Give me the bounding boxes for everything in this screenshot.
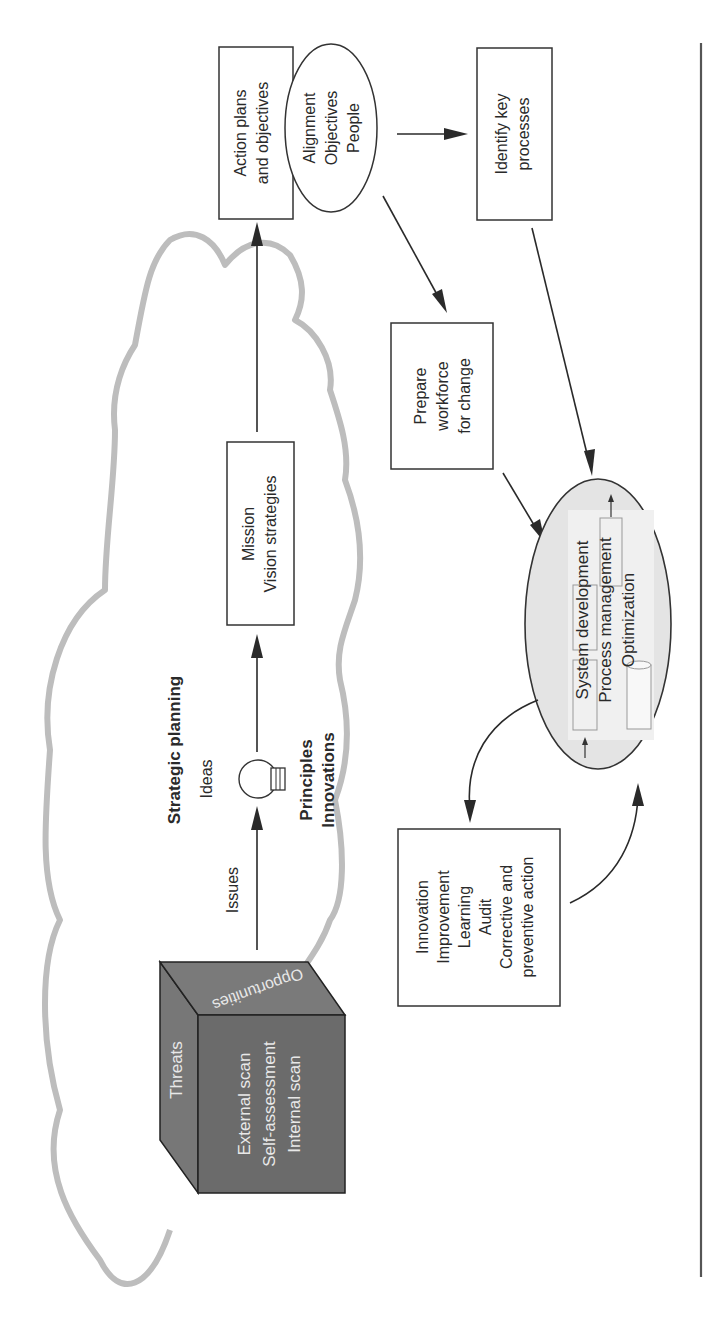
database-cylinder-icon: [627, 661, 651, 729]
improvement-line-3: Learning: [456, 886, 473, 948]
arrowhead-identify: [444, 128, 468, 140]
arrowhead-identify-system: [584, 449, 595, 476]
mission-box: [227, 442, 294, 625]
arrowhead-prepare: [432, 289, 447, 313]
optimization-label: Optimization: [619, 573, 638, 667]
prepare-line-2: workforce: [434, 361, 451, 431]
improvement-line-1: Innovation: [414, 880, 431, 954]
arrow-to-prepare: [383, 196, 440, 300]
arrowhead-system-return: [632, 783, 644, 806]
arrowhead-mission: [251, 634, 263, 658]
principles-label: Principles: [297, 739, 316, 820]
issues-label: Issues: [224, 867, 241, 913]
arrow-improvement-to-system: [570, 797, 638, 903]
innovations-label: Innovations: [319, 732, 338, 827]
arrowhead-issues: [251, 806, 263, 830]
action-plans-line-1: Action plans: [232, 89, 249, 176]
arrowhead-improvement: [464, 800, 476, 823]
system-development-label: System development: [573, 540, 592, 699]
cube-front-line-2: Self-assessment: [260, 1041, 279, 1167]
action-plans-line-2: and objectives: [254, 82, 271, 184]
improvement-line-6: preventive action: [519, 857, 536, 978]
strategic-planning-diagram: Opportunities Threats External scan Self…: [0, 0, 711, 1331]
mission-line-2: Vision strategies: [262, 475, 279, 592]
improvement-line-5: Corrective and: [498, 865, 515, 969]
lightbulb-icon: [239, 760, 285, 798]
prepare-line-3: for change: [456, 358, 473, 434]
process-management-label: Process management: [596, 537, 615, 703]
identify-line-1: Identify key: [493, 94, 510, 175]
ideas-label: Ideas: [198, 759, 215, 798]
cube-front-line-1: External scan: [235, 1053, 254, 1156]
prepare-line-1: Prepare: [412, 367, 429, 424]
identify-line-2: processes: [515, 98, 532, 171]
mission-line-1: Mission: [240, 507, 257, 561]
arrow-prepare-to-system: [503, 473, 537, 530]
swot-cube: Opportunities Threats External scan Self…: [160, 962, 345, 1193]
improvement-line-2: Improvement: [435, 870, 452, 964]
alignment-line-1: Alignment: [301, 92, 318, 164]
improvement-line-4: Audit: [477, 898, 494, 935]
alignment-line-3: People: [345, 103, 362, 153]
strategic-planning-title: Strategic planning: [165, 676, 184, 824]
arrow-system-to-improvement: [469, 700, 538, 810]
arrowhead-action: [251, 222, 263, 246]
cube-front-line-3: Internal scan: [285, 1055, 304, 1152]
arrow-identify-to-system: [532, 228, 589, 462]
alignment-line-2: Objectives: [323, 91, 340, 166]
cube-threats-label: Threats: [167, 1041, 186, 1099]
